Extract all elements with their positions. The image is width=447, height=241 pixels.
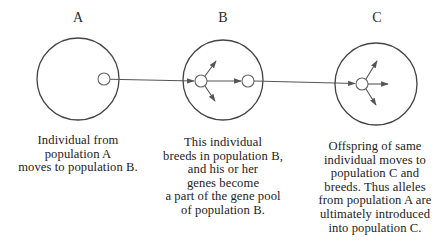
migration-arrow-b-to-c [254,81,355,84]
gene-flow-diagram: A B C Individual from population A moves… [0,0,447,241]
breeding-individual-c [356,78,368,90]
migrant-individual [98,73,110,85]
population-b [183,40,263,120]
population-a [37,38,119,120]
population-a-label: A [63,10,93,26]
population-c-label: C [362,10,392,26]
population-c [335,43,417,125]
breeding-individual-b [195,75,207,87]
offspring-arrow-down-b [205,86,215,101]
migration-arrow-a-to-b [110,79,194,81]
offspring-arrow-up-c [366,61,377,79]
offspring-arrow-down-c [366,89,376,105]
offspring-arrow-up-b [205,61,216,76]
population-b-label: B [208,10,238,26]
offspring-individual [242,75,254,87]
population-c-caption: Offspring of same individual moves to po… [300,140,447,235]
population-a-caption: Individual from population A moves to po… [0,134,156,175]
population-b-caption: This individual breeds in population B, … [146,136,300,218]
